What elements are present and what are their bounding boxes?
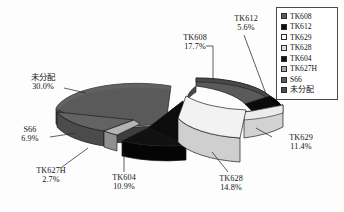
legend-item-tk629[interactable]: TK629 <box>281 32 334 43</box>
legend-label: TK627H <box>290 65 317 73</box>
legend-swatch-icon <box>281 77 287 83</box>
legend-item-tk627h[interactable]: TK627H <box>281 64 334 75</box>
legend-item-weifenpei[interactable]: 未分配 <box>281 85 334 96</box>
data-label-tk629: TK629 11.4% <box>274 133 328 151</box>
data-label-value: 5.6% <box>220 23 272 32</box>
data-label-name: S66 <box>5 125 55 134</box>
legend-item-tk628[interactable]: TK628 <box>281 43 334 54</box>
legend-label: TK608 <box>290 13 312 21</box>
legend-swatch-icon <box>281 87 287 93</box>
data-label-value: 14.8% <box>204 183 258 192</box>
legend-label: 未分配 <box>290 86 314 94</box>
data-label-name: TK604 <box>96 173 152 182</box>
leader-tk627h <box>62 148 88 167</box>
legend-label: TK612 <box>290 23 312 31</box>
data-label-name: TK628 <box>204 174 258 183</box>
legend-swatch-icon <box>281 24 287 30</box>
legend-label: S66 <box>290 76 302 84</box>
legend-item-tk612[interactable]: TK612 <box>281 22 334 33</box>
chart-legend: TK608 TK612 TK629 TK628 TK604 TK627H S66 <box>276 7 338 100</box>
data-label-tk612: TK612 5.6% <box>220 14 272 32</box>
chart-figure: 未分配 30.0% S66 6.9% TK627H 2.7% TK604 10.… <box>0 0 344 212</box>
legend-item-tk604[interactable]: TK604 <box>281 53 334 64</box>
data-label-name: TK612 <box>220 14 272 23</box>
data-label-name: TK608 <box>169 33 221 42</box>
pie-half-left <box>56 83 186 161</box>
legend-label: TK628 <box>290 44 312 52</box>
data-label-name: TK629 <box>274 133 328 142</box>
data-label-value: 10.9% <box>96 182 152 191</box>
legend-swatch-icon <box>281 34 287 40</box>
data-label-tk628: TK628 14.8% <box>204 174 258 192</box>
legend-swatch-icon <box>281 66 287 72</box>
data-label-value: 17.7% <box>169 42 221 51</box>
data-label-s66: S66 6.9% <box>5 125 55 143</box>
data-label-tk627h: TK627H 2.7% <box>23 166 79 184</box>
data-label-name: TK627H <box>23 166 79 175</box>
data-label-tk604: TK604 10.9% <box>96 173 152 191</box>
data-label-value: 11.4% <box>274 142 328 151</box>
data-label-tk608: TK608 17.7% <box>169 33 221 51</box>
legend-item-s66[interactable]: S66 <box>281 75 334 86</box>
legend-swatch-icon <box>281 56 287 62</box>
data-label-value: 30.0% <box>14 82 72 91</box>
data-label-value: 6.9% <box>5 134 55 143</box>
data-label-weifenpei: 未分配 30.0% <box>14 73 72 92</box>
data-label-value: 2.7% <box>23 175 79 184</box>
legend-swatch-icon <box>281 45 287 51</box>
data-label-name: 未分配 <box>14 73 72 82</box>
legend-label: TK604 <box>290 55 312 63</box>
legend-label: TK629 <box>290 34 312 42</box>
legend-swatch-icon <box>281 13 287 19</box>
legend-item-tk608[interactable]: TK608 <box>281 11 334 22</box>
pie-half-right <box>178 78 283 162</box>
